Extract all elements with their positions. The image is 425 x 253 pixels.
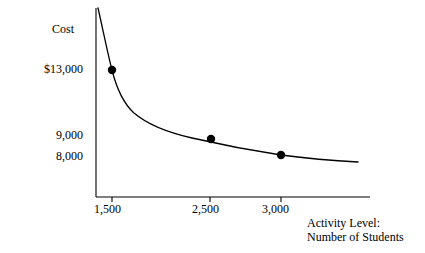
y-tick-label-13000: $13,000: [44, 63, 83, 76]
y-tick-label-8000: 8,000: [56, 150, 83, 163]
x-tick-label-1500: 1,500: [94, 203, 121, 216]
cost-curve-line: [98, 8, 358, 162]
data-point-1500: [108, 66, 116, 74]
x-tick-label-2500: 2,500: [192, 203, 219, 216]
x-axis-title-line1: Activity Level:: [307, 217, 380, 230]
x-tick-label-3000: 3,000: [262, 203, 289, 216]
y-axis-title: Cost: [52, 23, 74, 36]
data-point-3000: [277, 151, 285, 159]
x-axis-title-line2: Number of Students: [307, 231, 404, 244]
cost-curve-chart: Cost $13,000 9,000 8,000 1,500 2,500 3,0…: [0, 0, 425, 253]
data-point-2500: [207, 135, 215, 143]
y-tick-label-9000: 9,000: [56, 129, 83, 142]
